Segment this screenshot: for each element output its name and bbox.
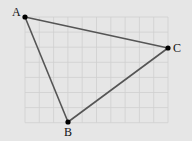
vertex-b-label: B <box>64 125 72 139</box>
diagram-canvas: ABC <box>0 0 192 141</box>
triangle-diagram: ABC <box>0 0 192 141</box>
vertex-b-dot <box>65 119 70 124</box>
vertex-a-dot <box>22 14 27 19</box>
vertex-c-label: C <box>173 41 181 55</box>
edge-bc <box>68 48 168 122</box>
vertex-a-label: A <box>12 5 21 19</box>
vertex-c-dot <box>165 45 170 50</box>
edge-ab <box>25 17 68 122</box>
